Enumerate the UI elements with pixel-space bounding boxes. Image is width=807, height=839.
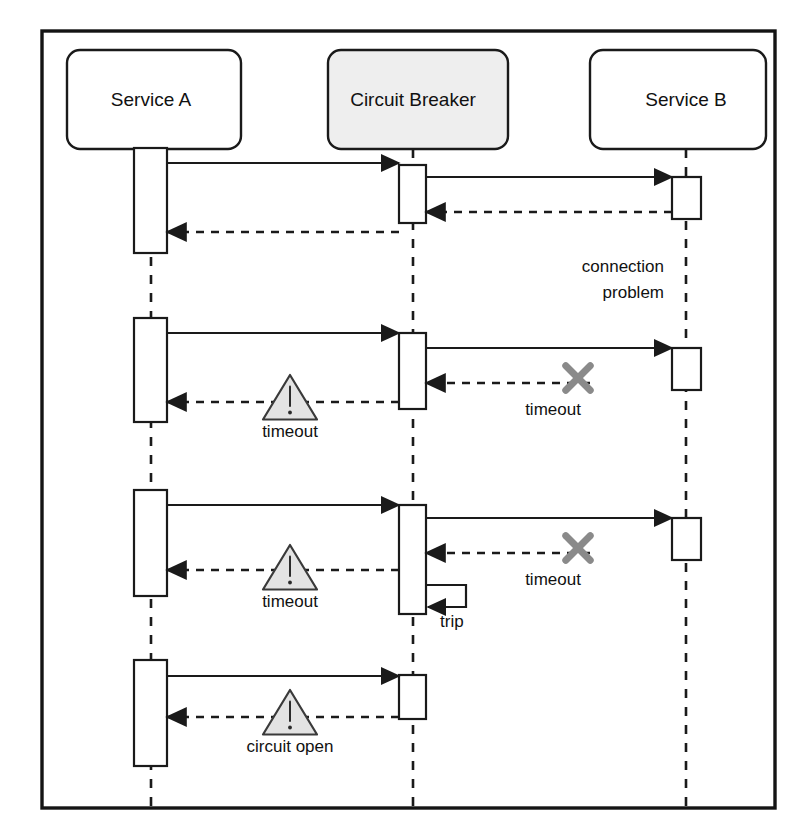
activation-bar-service-a-3 <box>134 660 167 766</box>
xmark-label-xmark-timeout-3: timeout <box>525 570 581 589</box>
activation-bar-circuit-breaker-7 <box>399 675 426 719</box>
sequence-diagram-svg: Service ACircuit BreakerService B trip t… <box>0 0 807 839</box>
warning-label-warn-timeout-3: timeout <box>262 592 318 611</box>
self-message-trip-path <box>426 585 466 607</box>
warning-group-warn-timeout-3: timeout <box>262 545 318 611</box>
note-connection-problem: connectionproblem <box>582 257 664 302</box>
warning-exclamation-dot-icon <box>288 411 292 415</box>
warning-icons-group: timeouttimeoutcircuit open <box>247 375 334 756</box>
sequence-diagram-canvas: Service ACircuit BreakerService B trip t… <box>0 0 807 839</box>
messages-group <box>167 163 672 717</box>
lifeline-label-circuit-breaker: Circuit Breaker <box>350 89 476 110</box>
self-message-trip-group: trip <box>426 585 466 631</box>
note-line-0: connection <box>582 257 664 276</box>
activation-bar-service-b-8 <box>672 177 701 219</box>
activation-bar-circuit-breaker-6 <box>399 505 426 614</box>
lifeline-label-service-a: Service A <box>111 89 192 110</box>
lifeline-boxes-group: Service ACircuit BreakerService B <box>67 50 766 149</box>
warning-label-warn-circuit-open: circuit open <box>247 737 334 756</box>
x-marks-group: timeouttimeout <box>525 366 590 589</box>
activation-bar-service-a-2 <box>134 490 167 596</box>
warning-exclamation-dot-icon <box>288 726 292 730</box>
activation-bar-service-a-0 <box>134 148 167 253</box>
activation-bar-circuit-breaker-4 <box>399 165 426 223</box>
activation-bars-group <box>134 148 701 766</box>
warning-label-warn-timeout-2: timeout <box>262 422 318 441</box>
warning-group-warn-timeout-2: timeout <box>262 375 318 441</box>
activation-bar-service-b-10 <box>672 518 701 560</box>
notes-group: connectionproblem <box>582 257 664 302</box>
self-message-trip-label: trip <box>440 612 464 631</box>
warning-group-warn-circuit-open: circuit open <box>247 690 334 756</box>
xmark-group-xmark-timeout-3: timeout <box>525 536 590 589</box>
activation-bar-service-a-1 <box>134 318 167 422</box>
activation-bar-circuit-breaker-5 <box>399 333 426 409</box>
activation-bar-service-b-9 <box>672 348 701 390</box>
xmark-label-xmark-timeout-2: timeout <box>525 400 581 419</box>
warning-exclamation-dot-icon <box>288 581 292 585</box>
note-line-1: problem <box>603 283 664 302</box>
xmark-group-xmark-timeout-2: timeout <box>525 366 590 419</box>
lifeline-label-service-b: Service B <box>645 89 726 110</box>
